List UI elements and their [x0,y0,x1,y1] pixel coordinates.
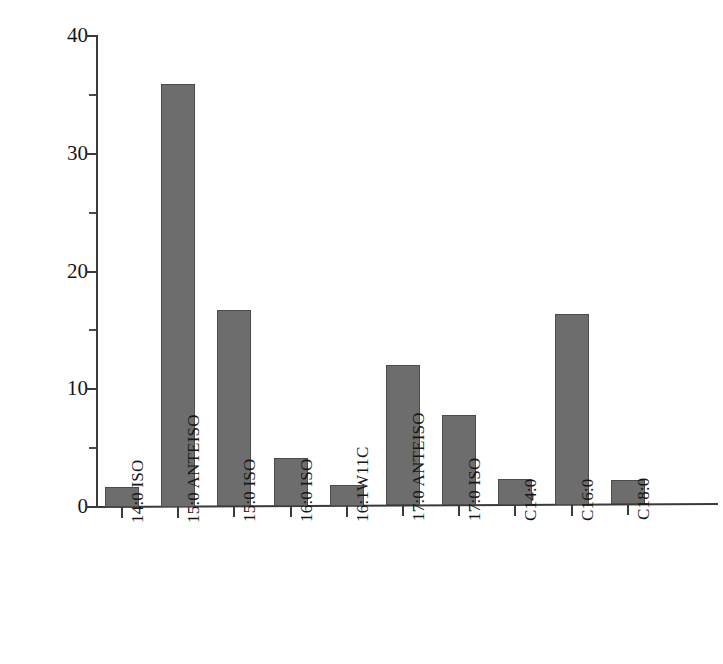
x-tick-mark [346,506,348,517]
x-tick-label: C18:0 [635,478,652,521]
x-tick-label: 16:1W11C [354,446,371,522]
x-tick-mark [177,507,179,518]
x-tick-mark [402,505,404,516]
x-tick-mark [458,505,460,516]
x-tick-label: 14:0 ISO [129,459,146,522]
x-tick-label: 17:0 ANTEISO [410,413,427,522]
bars-layer [0,0,723,664]
x-tick-mark [571,505,573,516]
x-tick-label: 15:0 ISO [241,459,258,522]
x-tick-mark [121,507,123,518]
x-tick-label: 16:0 ISO [298,459,315,522]
x-tick-label: C14:0 [522,478,539,521]
x-tick-mark [290,506,292,517]
x-tick-label: C16:0 [579,478,596,521]
bar [555,314,589,505]
x-tick-label: 15:0 ANTEISO [185,414,202,523]
fatty-acid-composition-bar-chart: 脂肪酸含量/% 010203040 14:0 ISO15:0 ANTEISO15… [0,0,723,664]
x-tick-mark [514,505,516,516]
x-tick-mark [233,506,235,517]
x-tick-label: 17:0 ISO [466,458,483,521]
x-tick-mark [627,504,629,515]
